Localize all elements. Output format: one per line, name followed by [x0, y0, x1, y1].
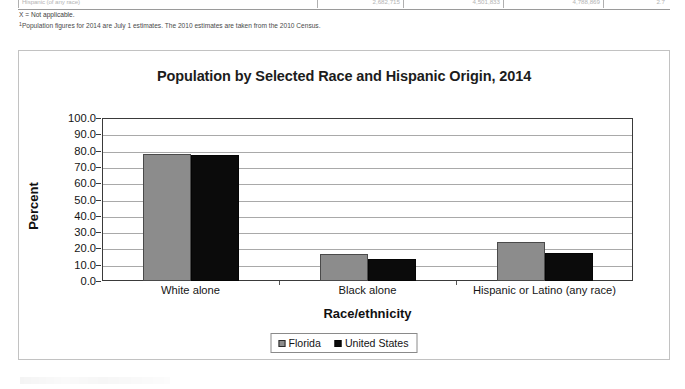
footnote-text: Population figures for 2014 are July 1 e… — [22, 22, 321, 29]
bar-florida — [320, 254, 368, 281]
y-axis-tick-label: 60.0 — [52, 177, 96, 189]
scan-artifact — [20, 377, 170, 384]
y-axis-tick — [96, 281, 101, 282]
legend-label-florida: Florida — [289, 337, 321, 349]
table-cell-value-3: 4,788,869 — [504, 0, 604, 8]
footnote-population-figures: 1Population figures for 2014 are July 1 … — [19, 20, 659, 31]
y-axis-tick — [96, 167, 101, 168]
y-axis-tick-label: 80.0 — [52, 145, 96, 157]
bar-united-states — [191, 155, 239, 281]
y-axis-tick-label: 30.0 — [52, 226, 96, 238]
y-axis-tick-label: 0.0 — [52, 275, 96, 287]
bar-florida — [497, 242, 545, 281]
bar-florida — [143, 154, 191, 281]
table-row: Hispanic (of any race) 2,682,715 4,501,8… — [18, 0, 670, 8]
legend-label-united-states: United States — [345, 337, 409, 349]
y-axis-tick-labels: 0.010.020.030.040.050.060.070.080.090.01… — [52, 118, 96, 281]
y-axis-tick-label: 10.0 — [52, 259, 96, 271]
y-axis-tick — [96, 151, 101, 152]
x-axis-title: Race/ethnicity — [102, 306, 633, 321]
y-axis-tick — [96, 232, 101, 233]
table-cell-value-4: 2.7 — [604, 0, 668, 8]
bar-united-states — [368, 259, 416, 281]
y-axis-tick-label: 20.0 — [52, 242, 96, 254]
footnotes: X = Not applicable. 1Population figures … — [19, 10, 659, 30]
y-axis-tick-label: 90.0 — [52, 128, 96, 140]
bar-united-states — [545, 253, 593, 281]
chart-legend: Florida United States — [271, 333, 418, 353]
y-axis-tick — [96, 265, 101, 266]
y-axis-tick-label: 40.0 — [52, 210, 96, 222]
footnote-not-applicable: X = Not applicable. — [19, 10, 659, 20]
y-axis-tick-label: 50.0 — [52, 194, 96, 206]
legend-entry-florida: Florida — [279, 337, 321, 349]
bars-layer — [102, 118, 633, 281]
y-axis-tick — [96, 200, 101, 201]
y-axis-tick-label: 70.0 — [52, 161, 96, 173]
table-cell-value-2: 4,501,833 — [404, 0, 504, 8]
united-states-swatch-icon — [335, 340, 342, 347]
florida-swatch-icon — [279, 340, 286, 347]
y-axis-tick-label: 100.0 — [52, 112, 96, 124]
legend-entry-united-states: United States — [335, 337, 409, 349]
x-axis-category-labels: White aloneBlack aloneHispanic or Latino… — [102, 284, 633, 300]
y-axis-tick — [96, 118, 101, 119]
chart-panel: Population by Selected Race and Hispanic… — [18, 50, 670, 360]
x-axis-category-label: Hispanic or Latino (any race) — [473, 284, 616, 296]
table-row-fragment: Hispanic (of any race) 2,682,715 4,501,8… — [18, 0, 670, 10]
table-cell-value-1: 2,682,715 — [318, 0, 404, 8]
x-axis-category-label: Black alone — [339, 284, 397, 296]
y-axis-title: Percent — [26, 182, 41, 230]
table-cell-label: Hispanic (of any race) — [18, 0, 318, 8]
y-axis-tick — [96, 216, 101, 217]
y-axis-tick — [96, 248, 101, 249]
y-axis-tick — [96, 134, 101, 135]
chart-title: Population by Selected Race and Hispanic… — [19, 68, 669, 84]
x-axis-category-label: White alone — [161, 284, 220, 296]
y-axis-tick — [96, 183, 101, 184]
